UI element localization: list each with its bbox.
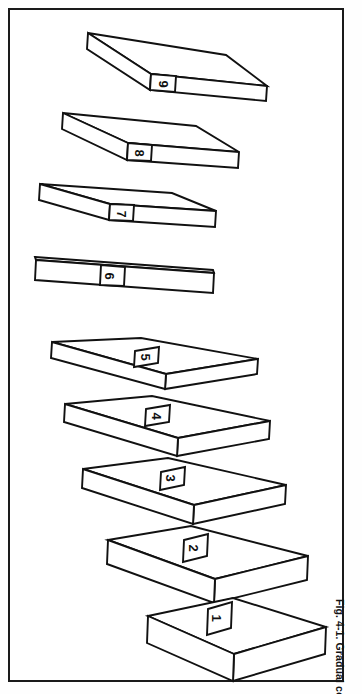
slab-3-label: 3 xyxy=(163,474,178,481)
slab-5-label: 5 xyxy=(138,353,153,360)
slab-9-label: 9 xyxy=(156,80,171,87)
slab-3: 3 xyxy=(82,458,286,524)
slab-1: 1 xyxy=(147,598,326,681)
slab-1-label: 1 xyxy=(209,614,224,621)
slab-8-label: 8 xyxy=(132,149,147,156)
slab-4: 4 xyxy=(64,396,270,456)
slab-9: 9 xyxy=(87,33,267,101)
figure-caption: Fig. 4-1. Gradual corner. xyxy=(332,8,347,682)
slab-8: 8 xyxy=(62,113,239,168)
scanned-page: 9 8 7 6 xyxy=(0,0,362,694)
slab-6: 6 xyxy=(35,257,214,293)
slab-5: 5 xyxy=(51,338,258,389)
slab-2: 2 xyxy=(107,526,308,603)
figure-caption-text: Fig. 4-1. Gradual corner. xyxy=(332,8,347,682)
figure-drawing-canvas: 9 8 7 6 xyxy=(8,8,346,684)
slab-4-label: 4 xyxy=(149,412,164,420)
slab-2-label: 2 xyxy=(186,544,201,551)
slab-7: 7 xyxy=(39,184,216,227)
gradual-corner-illustration: 9 8 7 6 xyxy=(8,8,346,684)
slab-7-label: 7 xyxy=(114,211,128,218)
slab-6-label: 6 xyxy=(102,272,117,279)
